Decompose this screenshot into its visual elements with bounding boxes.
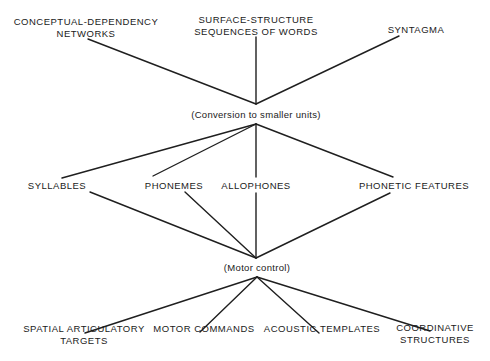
node-label-line: SEQUENCES OF WORDS: [194, 26, 318, 38]
node-allophones: ALLOPHONES: [221, 180, 290, 192]
node-label: SYLLABLES: [28, 180, 86, 192]
node-label-line: SURFACE-STRUCTURE: [194, 14, 318, 26]
node-motor-commands: MOTOR COMMANDS: [153, 323, 254, 335]
node-label-line: SYNTAGMA: [388, 24, 445, 36]
edge-phonemes-to-motor: [185, 192, 256, 258]
edge-conversion-to-syllables: [62, 124, 256, 178]
node-surface-structure: SURFACE-STRUCTURE SEQUENCES OF WORDS: [194, 14, 318, 37]
edge-syntagma-to-conversion: [256, 36, 399, 104]
process-motor-control: (Motor control): [224, 262, 290, 273]
edge-conceptual-to-conversion: [88, 39, 256, 104]
node-label-line: ACOUSTIC TEMPLATES: [264, 323, 380, 335]
node-phonemes: PHONEMES: [145, 180, 203, 192]
node-label-line: NETWORKS: [14, 28, 159, 40]
node-conceptual-dependency-networks: CONCEPTUAL-DEPENDENCY NETWORKS: [14, 16, 159, 39]
node-coordinative-structures: COORDINATIVE STRUCTURES: [396, 322, 474, 345]
node-syllables: SYLLABLES: [28, 180, 86, 192]
node-label: PHONETIC FEATURES: [359, 180, 469, 192]
process-label: (Motor control): [224, 262, 290, 273]
node-label-line: COORDINATIVE: [396, 322, 474, 334]
node-label-line: CONCEPTUAL-DEPENDENCY: [14, 16, 159, 28]
edge-syllables-to-motor: [90, 192, 256, 258]
node-label-line: SPATIAL ARTICULATORY: [23, 323, 145, 335]
node-label: ALLOPHONES: [221, 180, 290, 192]
node-label-line: MOTOR COMMANDS: [153, 323, 254, 335]
edge-conversion-to-phonemes: [153, 124, 256, 176]
node-label: PHONEMES: [145, 180, 203, 192]
process-conversion-to-smaller-units: (Conversion to smaller units): [191, 109, 321, 120]
node-label-line: STRUCTURES: [396, 334, 474, 346]
node-spatial-articulatory-targets: SPATIAL ARTICULATORY TARGETS: [23, 323, 145, 346]
node-label-line: TARGETS: [23, 335, 145, 347]
edge-phonetic-features-to-motor: [256, 193, 390, 258]
node-phonetic-features: PHONETIC FEATURES: [359, 180, 469, 192]
node-acoustic-templates: ACOUSTIC TEMPLATES: [264, 323, 380, 335]
process-label: (Conversion to smaller units): [191, 109, 321, 120]
edge-conversion-to-phonetic-features: [256, 124, 393, 177]
node-syntagma: SYNTAGMA: [388, 24, 445, 36]
